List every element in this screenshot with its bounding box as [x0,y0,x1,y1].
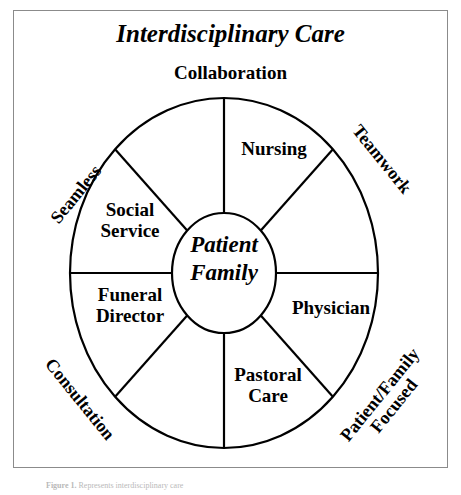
center-label-line1: Patient [159,231,289,259]
wedge-pastoral-line1: Pastoral [216,364,320,385]
center-label-patient-family: Patient Family [159,231,289,287]
figure-caption: Figure 1. Represents interdisciplinary c… [46,481,426,495]
wedge-funeral-line1: Funeral [73,284,187,305]
figure-caption-lead: Figure 1. [46,481,77,490]
wedge-pastoral-line2: Care [216,385,320,406]
wedge-label-pastoral-care: Pastoral Care [216,364,320,407]
wedge-label-funeral-director: Funeral Director [73,284,187,327]
wedge-label-physician: Physician [274,297,388,318]
figure-caption-text: Represents interdisciplinary care [79,481,184,490]
wedge-label-nursing: Nursing [222,138,326,159]
wedge-nursing-line1: Nursing [222,138,326,159]
wedge-social-line1: Social [78,199,182,220]
wedge-funeral-line2: Director [73,305,187,326]
figure-root: Interdisciplinary Care Collaboration Sea… [0,0,461,495]
center-label-line2: Family [159,259,289,287]
wedge-physician-line1: Physician [274,297,388,318]
